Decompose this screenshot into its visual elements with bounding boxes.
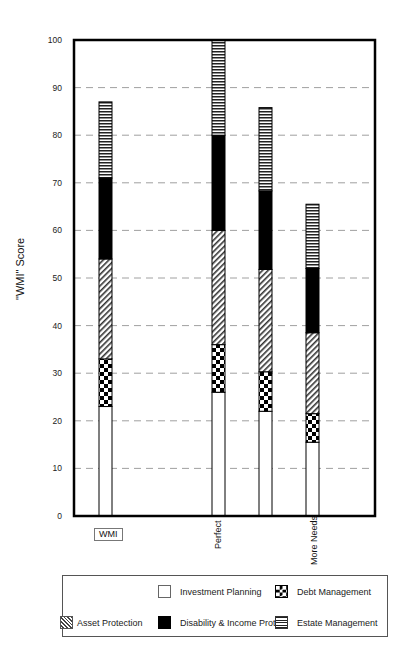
legend-item-debt-management: Debt Management	[275, 585, 371, 598]
y-tick-label: 10	[53, 463, 63, 473]
y-tick-label: 60	[53, 225, 63, 235]
disability-income-swatch-icon	[158, 616, 171, 629]
bar-segment	[306, 333, 319, 414]
legend-label: Estate Management	[297, 618, 378, 628]
y-tick-label: 100	[48, 35, 62, 45]
y-tick-label: 90	[53, 83, 63, 93]
y-axis-label: "WMI" Score	[14, 238, 26, 300]
bar-segment	[99, 178, 112, 259]
bar-more-needs	[306, 204, 319, 516]
bar-wmi	[99, 102, 112, 516]
legend: Investment Planning Debt Management Asse…	[62, 575, 388, 637]
bar-segment	[212, 345, 225, 393]
bar-segment	[99, 259, 112, 359]
debt-management-swatch-icon	[275, 585, 288, 598]
x-label-wmi: WMI	[94, 528, 123, 541]
legend-item-estate-management: Estate Management	[275, 616, 378, 629]
bar-segment	[259, 191, 272, 270]
x-label-perfect: Perfect	[213, 520, 223, 549]
bar-segment	[259, 269, 272, 371]
bar-segment	[306, 268, 319, 332]
legend-label: Debt Management	[297, 587, 371, 597]
bar-unlabeled	[259, 108, 272, 516]
bar-perfect	[212, 40, 225, 516]
legend-label: Disability & Income Prot	[180, 618, 276, 628]
legend-item-disability-income: Disability & Income Prot	[158, 616, 276, 629]
y-tick-label: 40	[53, 321, 63, 331]
legend-item-asset-protection: Asset Protection	[60, 616, 143, 629]
bar-segment	[99, 407, 112, 516]
bar-segment	[259, 411, 272, 516]
legend-label: Investment Planning	[180, 587, 262, 597]
asset-protection-swatch-icon	[60, 616, 73, 629]
x-label-more-needs: More Needs	[309, 516, 319, 565]
bar-segment	[306, 442, 319, 516]
investment-planning-swatch-icon	[158, 585, 171, 598]
bar-segment	[212, 230, 225, 344]
y-tick-label: 30	[53, 368, 63, 378]
bar-segment	[306, 414, 319, 443]
legend-label: Asset Protection	[77, 618, 143, 628]
bar-segment	[212, 135, 225, 230]
bar-segment	[99, 102, 112, 178]
y-axis-ticks: 0102030405060708090100	[48, 35, 62, 521]
stacked-bar-chart: 0102030405060708090100	[0, 0, 406, 570]
bar-segment	[259, 372, 272, 412]
bar-segment	[212, 40, 225, 135]
bar-segment	[99, 359, 112, 407]
y-tick-label: 80	[53, 130, 63, 140]
bar-segment	[212, 392, 225, 516]
y-tick-label: 20	[53, 416, 63, 426]
y-tick-label: 70	[53, 178, 63, 188]
bar-segment	[306, 204, 319, 268]
y-tick-label: 50	[53, 273, 63, 283]
estate-management-swatch-icon	[275, 616, 288, 629]
legend-item-investment-planning: Investment Planning	[158, 585, 262, 598]
bar-segment	[259, 108, 272, 191]
y-tick-label: 0	[57, 511, 62, 521]
